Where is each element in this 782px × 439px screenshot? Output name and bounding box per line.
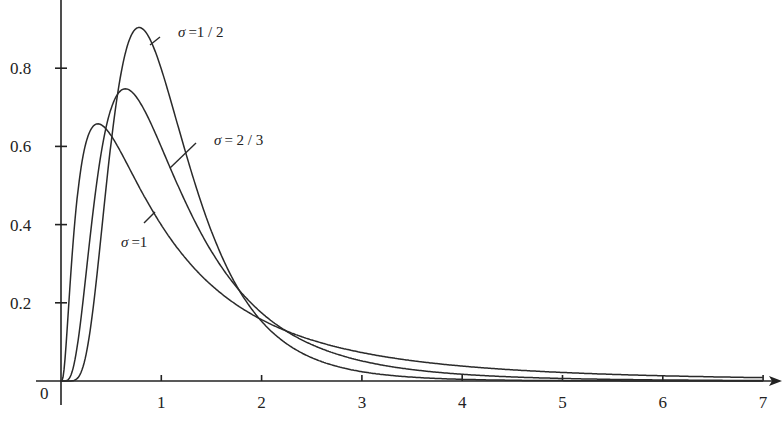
curves (61, 28, 763, 382)
y-tick-label: 0.2 (10, 294, 31, 313)
x-tick-label: 6 (659, 393, 668, 412)
x-tick-label: 7 (759, 393, 768, 412)
y-tick-label: 0.8 (10, 59, 31, 78)
y-tick-label: 0.6 (10, 137, 31, 156)
curve-series-1 (61, 89, 763, 381)
x-tick-label: 5 (558, 393, 567, 412)
lognormal-density-chart: 1234567 0.20.40.60.8 0 σ=1 / 2 σ= 2 / 3 … (0, 0, 782, 439)
label-sigma-two-thirds: σ= 2 / 3 (214, 132, 263, 148)
origin-label: 0 (40, 384, 49, 403)
curve-series-2 (61, 124, 763, 381)
pointer-sigma-two-thirds (170, 143, 196, 168)
x-tick-label: 2 (257, 393, 266, 412)
pointer-sigma-one (144, 212, 155, 223)
x-tick-label: 4 (458, 393, 467, 412)
curve-series-0 (61, 28, 763, 382)
label-sigma-half: σ=1 / 2 (178, 24, 224, 40)
x-tick-label: 3 (358, 393, 367, 412)
label-sigma-one: σ=1 (121, 234, 147, 250)
y-tick-label: 0.4 (10, 216, 32, 235)
x-tick-label: 1 (157, 393, 166, 412)
y-ticks: 0.20.40.60.8 (10, 59, 67, 313)
